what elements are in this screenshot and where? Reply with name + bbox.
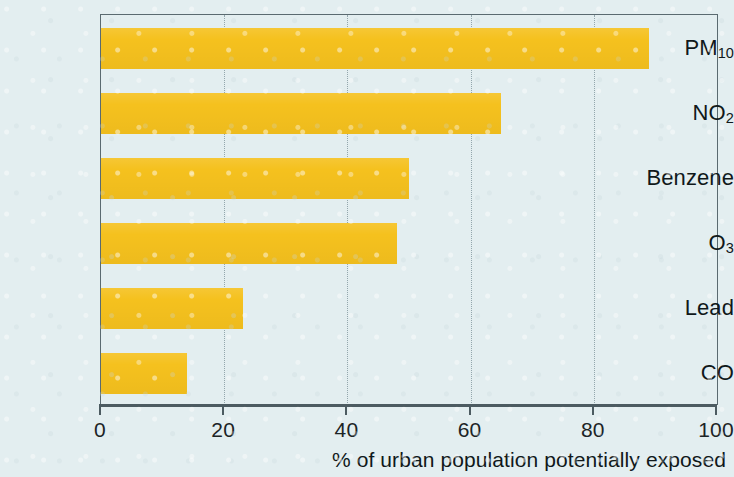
x-tick-mark-0 xyxy=(99,404,101,415)
x-tick-label-20: 20 xyxy=(211,418,235,442)
gridline-20 xyxy=(224,15,225,405)
x-tick-mark-60 xyxy=(469,404,471,415)
category-label-no2: NO2 xyxy=(642,100,734,126)
bar-lead xyxy=(101,288,243,329)
x-tick-mark-100 xyxy=(715,404,717,415)
bar-benzene xyxy=(101,158,409,199)
gridline-80 xyxy=(594,15,595,405)
x-tick-mark-20 xyxy=(222,404,224,415)
category-label-co: CO xyxy=(642,360,734,386)
x-axis-title: % of urban population potentially expose… xyxy=(332,448,726,472)
category-label-benzene: Benzene xyxy=(642,165,734,191)
category-label-lead: Lead xyxy=(642,295,734,321)
category-label-pm10: PM10 xyxy=(642,35,734,61)
gridline-60 xyxy=(471,15,472,405)
x-tick-label-80: 80 xyxy=(581,418,605,442)
x-tick-label-60: 60 xyxy=(458,418,482,442)
x-tick-label-40: 40 xyxy=(335,418,359,442)
x-tick-label-100: 100 xyxy=(698,418,734,442)
plot-area xyxy=(100,14,718,405)
bar-co xyxy=(101,353,187,394)
bar-no2 xyxy=(101,93,501,134)
x-tick-mark-40 xyxy=(345,404,347,415)
bar-pm10 xyxy=(101,28,649,69)
x-tick-label-0: 0 xyxy=(94,418,106,442)
x-tick-mark-80 xyxy=(592,404,594,415)
bar-chart-figure: 0 20 40 60 80 100 PM10 NO2 Benzene O3 Le… xyxy=(0,0,734,477)
x-axis-line xyxy=(99,404,717,407)
category-label-o3: O3 xyxy=(642,230,734,256)
gridline-40 xyxy=(347,15,348,405)
bar-o3 xyxy=(101,223,397,264)
